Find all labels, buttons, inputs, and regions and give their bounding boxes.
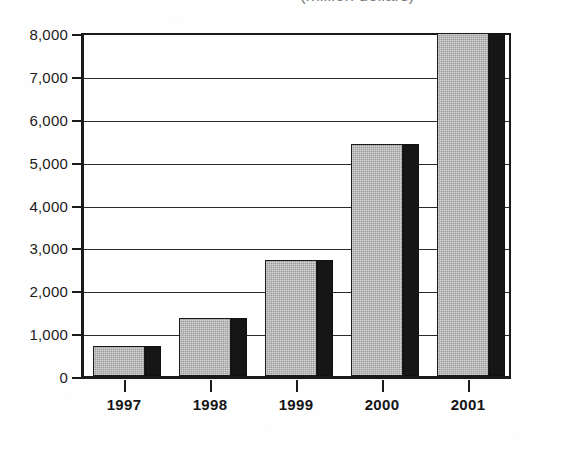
x-axis-label: 1998 [193, 396, 228, 413]
x-tick-mark [382, 380, 384, 392]
bar-group [93, 346, 161, 376]
y-axis-label: 1,000 [0, 326, 68, 343]
bar[interactable] [265, 260, 317, 376]
bar-chart: 01,0002,0003,0004,0005,0006,0007,0008,00… [0, 0, 586, 453]
bar[interactable] [351, 144, 403, 376]
bar[interactable] [93, 346, 145, 376]
y-axis-label: 6,000 [0, 111, 68, 128]
bar-shadow [231, 318, 247, 376]
x-axis-label: 2000 [365, 396, 400, 413]
x-tick-mark [468, 380, 470, 392]
bar-shadow [489, 33, 505, 376]
y-tick-mark [72, 34, 81, 36]
x-axis-label: 1999 [279, 396, 314, 413]
x-tick-mark [210, 380, 212, 392]
y-tick-mark [72, 334, 81, 336]
bar-shadow [145, 346, 161, 376]
bar-group [179, 318, 247, 376]
y-axis-label: 3,000 [0, 240, 68, 257]
x-tick-mark [296, 380, 298, 392]
bar-group [437, 33, 505, 376]
y-tick-mark [72, 120, 81, 122]
y-axis-label: 2,000 [0, 283, 68, 300]
y-axis-label: 4,000 [0, 197, 68, 214]
y-axis-label: 8,000 [0, 26, 68, 43]
y-tick-mark [72, 248, 81, 250]
chart-page: (million dollars) 01,0002,0003,0004,0005… [0, 0, 586, 453]
y-tick-mark [72, 291, 81, 293]
y-axis-label: 5,000 [0, 154, 68, 171]
x-axis-label: 1997 [107, 396, 142, 413]
y-tick-mark [72, 77, 81, 79]
bar-group [265, 260, 333, 376]
y-tick-mark [72, 163, 81, 165]
x-axis-label: 2001 [451, 396, 486, 413]
bar-shadow [403, 144, 419, 376]
y-axis-label: 7,000 [0, 68, 68, 85]
x-tick-mark [124, 380, 126, 392]
bar[interactable] [179, 318, 231, 376]
y-tick-mark [72, 377, 81, 379]
y-tick-mark [72, 206, 81, 208]
bar[interactable] [437, 33, 489, 376]
bar-shadow [317, 260, 333, 376]
y-axis-label: 0 [0, 369, 68, 386]
bar-group [351, 144, 419, 376]
plot-area [81, 33, 511, 379]
